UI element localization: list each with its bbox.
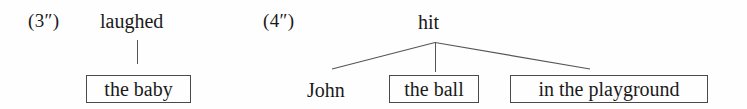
example-number-label-3: (3″): [28, 11, 59, 30]
tree-branch-left-john: [332, 43, 435, 70]
syntax-tree-figure: (3″) laughed the baby (4″) hit John the …: [0, 0, 747, 109]
tree-child-label-john: John: [307, 80, 345, 100]
tree-child-box-the-ball: the ball: [389, 75, 479, 103]
tree-child-box-the-baby: the baby: [86, 75, 191, 103]
tree-branch-right-playground: [435, 43, 590, 70]
tree-child-box-in-the-playground: in the playground: [510, 75, 708, 103]
tree-branch-vertical-laughed: [137, 40, 138, 64]
tree-head-node-hit: hit: [418, 12, 439, 32]
tree-head-node-laughed: laughed: [100, 11, 163, 31]
example-number-label-4: (4″): [263, 11, 294, 30]
tree-branch-vertical-the-ball: [435, 42, 436, 72]
